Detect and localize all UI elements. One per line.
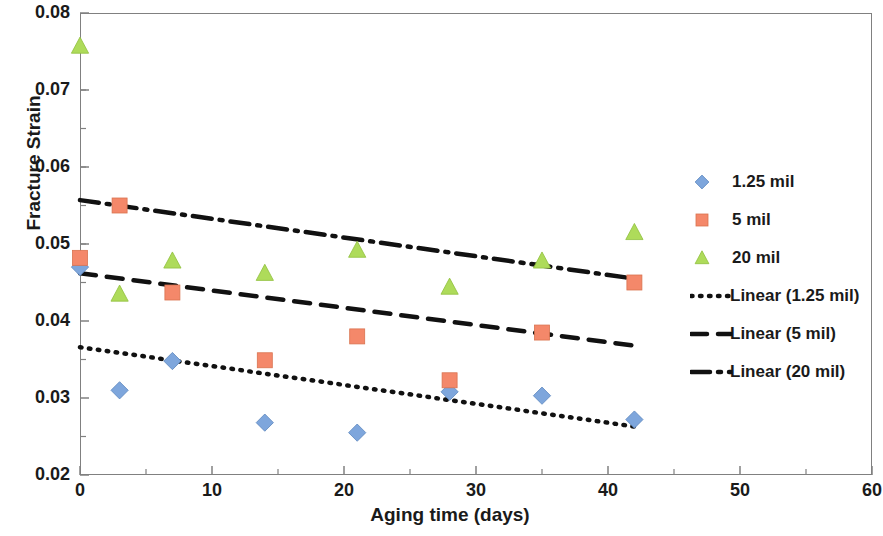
- legend-item-label: Linear (1.25 mil): [730, 286, 859, 306]
- x-tick-label: 10: [182, 480, 242, 501]
- x-tick-label: 30: [446, 480, 506, 501]
- legend-item: 20 mil: [690, 239, 880, 277]
- y-tick-label: 0.03: [4, 387, 70, 408]
- legend-item: Linear (1.25 mil): [690, 277, 880, 315]
- data-point: [533, 387, 550, 404]
- legend-item-label: Linear (5 mil): [730, 324, 836, 344]
- data-point: [441, 278, 458, 294]
- data-point: [71, 37, 88, 53]
- data-point: [349, 241, 366, 257]
- dotted-line: [690, 286, 732, 306]
- data-point: [164, 252, 181, 268]
- dashed-line: [690, 324, 732, 344]
- data-point: [111, 285, 128, 301]
- x-tick-label: 50: [710, 480, 770, 501]
- data-point: [256, 414, 273, 431]
- data-point: [112, 198, 127, 213]
- data-point: [165, 285, 180, 300]
- data-point: [73, 250, 88, 265]
- triangle-marker: [690, 248, 732, 268]
- x-tick-label: 60: [842, 480, 883, 501]
- data-point: [350, 329, 365, 344]
- legend-item-label: 1.25 mil: [732, 172, 794, 192]
- chart-canvas: 0.020.030.040.050.060.070.08 01020304050…: [0, 0, 883, 536]
- y-tick-label: 0.04: [4, 310, 70, 331]
- legend-item: Linear (20 mil): [690, 353, 880, 391]
- data-point: [442, 373, 457, 388]
- y-axis-title: Fracture Strain: [23, 83, 45, 243]
- data-point: [533, 252, 550, 268]
- legend-item-label: 5 mil: [732, 210, 771, 230]
- data-point: [349, 424, 366, 441]
- square-marker: [690, 210, 732, 230]
- data-point: [626, 223, 643, 239]
- data-point: [111, 382, 128, 399]
- legend-item: 1.25 mil: [690, 163, 880, 201]
- legend-item: 5 mil: [690, 201, 880, 239]
- x-tick-label: 20: [314, 480, 374, 501]
- x-tick-label: 40: [578, 480, 638, 501]
- trendlines-layer: [80, 200, 634, 426]
- data-point: [164, 352, 181, 369]
- y-tick-label: 0.08: [4, 2, 70, 23]
- diamond-marker: [690, 172, 732, 192]
- legend-item-label: Linear (20 mil): [730, 362, 845, 382]
- chart-legend: 1.25 mil5 mil20 milLinear (1.25 mil)Line…: [690, 163, 880, 391]
- legend-item: Linear (5 mil): [690, 315, 880, 353]
- legend-item-label: 20 mil: [732, 248, 780, 268]
- data-point: [535, 325, 550, 340]
- data-point: [626, 411, 643, 428]
- data-point: [257, 353, 272, 368]
- x-tick-label: 0: [50, 480, 110, 501]
- data-point: [627, 275, 642, 290]
- data-point: [256, 264, 273, 280]
- dashdot-line: [690, 362, 732, 382]
- x-axis-title: Aging time (days): [250, 504, 650, 526]
